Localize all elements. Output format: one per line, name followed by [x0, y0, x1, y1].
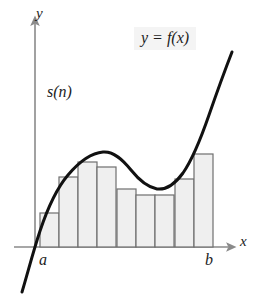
lower-limit-label: a [39, 252, 47, 268]
riemann-rectangle [40, 213, 59, 247]
riemann-rectangle [155, 195, 174, 247]
riemann-rectangle [136, 195, 155, 247]
riemann-rectangle [78, 162, 97, 247]
riemann-rectangle [175, 179, 194, 247]
sum-notation-label: s(n) [47, 84, 72, 100]
riemann-rectangle [97, 167, 116, 247]
riemann-rectangle [117, 189, 136, 247]
function-equation-label: y = f(x) [134, 27, 196, 50]
upper-limit-label: b [205, 252, 213, 268]
y-axis-label: y [36, 6, 43, 21]
riemann-sum-figure: y x a b s(n) y = f(x) [0, 0, 272, 299]
x-axis-label: x [240, 234, 247, 249]
riemann-rectangle [194, 154, 213, 247]
riemann-rectangle [59, 177, 78, 247]
